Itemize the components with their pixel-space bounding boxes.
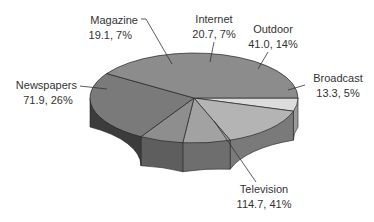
label-internet-value: 20.7, 7% xyxy=(192,28,236,40)
label-outdoor-value: 41.0, 14% xyxy=(248,38,298,50)
label-broadcast: Broadcast 13.3, 5% xyxy=(313,72,363,99)
label-internet-name: Internet xyxy=(195,13,232,25)
label-television-value: 114.7, 41% xyxy=(237,198,292,210)
label-magazine-name: Magazine xyxy=(90,14,138,26)
label-outdoor-name: Outdoor xyxy=(253,23,293,35)
label-magazine: Magazine 19.1, 7% xyxy=(89,14,138,41)
label-broadcast-name: Broadcast xyxy=(313,72,363,84)
label-newspapers-name: Newspapers xyxy=(16,79,78,91)
label-television-name: Television xyxy=(240,183,288,195)
pie-top-surface xyxy=(90,53,298,143)
label-newspapers-value: 71.9, 26% xyxy=(23,94,73,106)
label-magazine-value: 19.1, 7% xyxy=(89,29,133,41)
label-internet: Internet 20.7, 7% xyxy=(192,13,236,40)
side-internet xyxy=(183,140,230,172)
label-newspapers: Newspapers 71.9, 26% xyxy=(16,79,78,106)
pie-chart: Magazine 19.1, 7% Internet 20.7, 7% Outd… xyxy=(0,0,374,222)
label-television: Television 114.7, 41% xyxy=(237,183,292,210)
label-outdoor: Outdoor 41.0, 14% xyxy=(248,23,298,50)
label-broadcast-value: 13.3, 5% xyxy=(316,87,360,99)
